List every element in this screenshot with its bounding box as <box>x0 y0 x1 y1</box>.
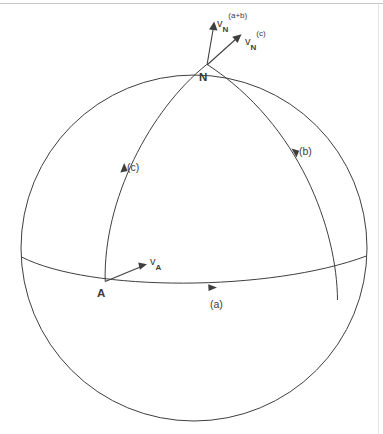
point-label-n: N <box>199 72 207 84</box>
point-label-a: A <box>97 288 105 300</box>
meridian-arc-b <box>207 65 337 300</box>
arc-a-arrowhead <box>208 284 217 291</box>
sphere-outline <box>21 75 367 421</box>
vector-label-vN-ab: vN(a+b) <box>217 16 247 32</box>
vector-vA-shaft <box>105 267 141 282</box>
vector-label-vN-ab-superscript: (a+b) <box>228 11 247 20</box>
equator-arc-a <box>22 256 367 283</box>
arc-label-b: (b) <box>299 146 312 157</box>
vector-label-vA-base: v <box>150 255 156 267</box>
arc-label-c: (c) <box>127 162 139 173</box>
vector-label-vA-subscript: A <box>156 263 162 272</box>
vector-label-vN-c-base: v <box>245 35 251 47</box>
vector-label-vN-ab-subscript: N <box>223 25 229 34</box>
sphere-diagram-svg <box>0 0 383 434</box>
vector-label-vA: vA <box>150 256 161 270</box>
figure-container: N A (a) (b) (c) vN(a+b) vN(c) vA <box>0 0 383 434</box>
vector-label-vN-c-superscript: (c) <box>256 29 265 38</box>
arc-label-a: (a) <box>210 299 223 310</box>
vector-vN-c-shaft <box>207 39 237 66</box>
vector-label-vN-c: vN(c) <box>245 34 266 50</box>
vector-label-vN-c-subscript: N <box>251 43 257 52</box>
vector-label-vN-ab-base: v <box>217 17 223 29</box>
vector-vA-arrowhead <box>138 263 147 270</box>
meridian-arc-c <box>105 65 206 282</box>
